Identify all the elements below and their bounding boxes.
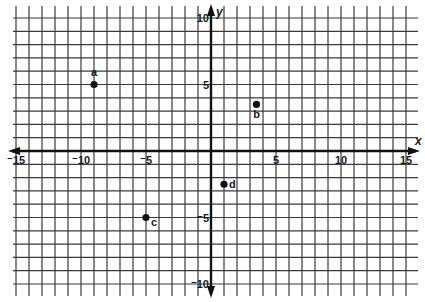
point-label-c: c xyxy=(151,216,157,228)
y-tick-label: 5 xyxy=(203,79,209,91)
y-tick-label: ⁻10 xyxy=(191,278,209,290)
coordinate-plane: xy⁻15⁻10⁻551015105⁻5⁻10 abcd xyxy=(0,0,425,302)
x-axis-label: x xyxy=(414,134,423,148)
point-label-d: d xyxy=(229,178,236,190)
data-point-a xyxy=(90,81,97,88)
tick-labels: xy⁻15⁻10⁻551015105⁻5⁻10 xyxy=(7,5,423,290)
x-tick-label: 10 xyxy=(335,154,347,166)
point-label-b: b xyxy=(253,108,260,120)
x-tick-label: ⁻10 xyxy=(72,154,90,166)
data-point-c xyxy=(142,214,149,221)
data-point-d xyxy=(220,181,227,188)
point-label-a: a xyxy=(91,66,98,78)
x-tick-label: 5 xyxy=(273,154,279,166)
y-tick-label: 10 xyxy=(197,12,209,24)
x-tick-label: ⁻5 xyxy=(140,154,152,166)
axes xyxy=(8,4,420,298)
y-axis-label: y xyxy=(215,5,224,19)
data-point-b xyxy=(253,101,260,108)
y-tick-label: ⁻5 xyxy=(197,212,209,224)
x-tick-label: 15 xyxy=(400,154,412,166)
x-tick-label: ⁻15 xyxy=(7,154,25,166)
data-points: abcd xyxy=(90,66,260,228)
